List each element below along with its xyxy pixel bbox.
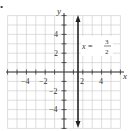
arrow-down-icon [76,121,81,128]
x-axis-label: x [122,71,127,81]
x-tick-label: 2 [80,77,84,86]
x-tick-label: 4 [99,77,103,86]
equation-numerator: 3 [105,38,109,46]
x-tick-label: −4 [21,77,30,86]
coordinate-plane: • x y −4 −2 2 4 4 2 −2 −4 x = 3 2 [0,0,128,131]
y-axis-label: y [56,6,61,16]
y-tick-label: 4 [54,30,58,39]
arrow-up-icon [76,15,81,22]
equation-denominator: 2 [105,48,109,56]
equation-lhs: x = [81,42,93,51]
y-tick-label: 2 [54,49,58,58]
bullet-marker: • [0,2,3,12]
x-tick-label: −2 [39,77,48,86]
y-tick-label: −4 [49,105,58,114]
y-tick-label: −2 [49,87,58,96]
